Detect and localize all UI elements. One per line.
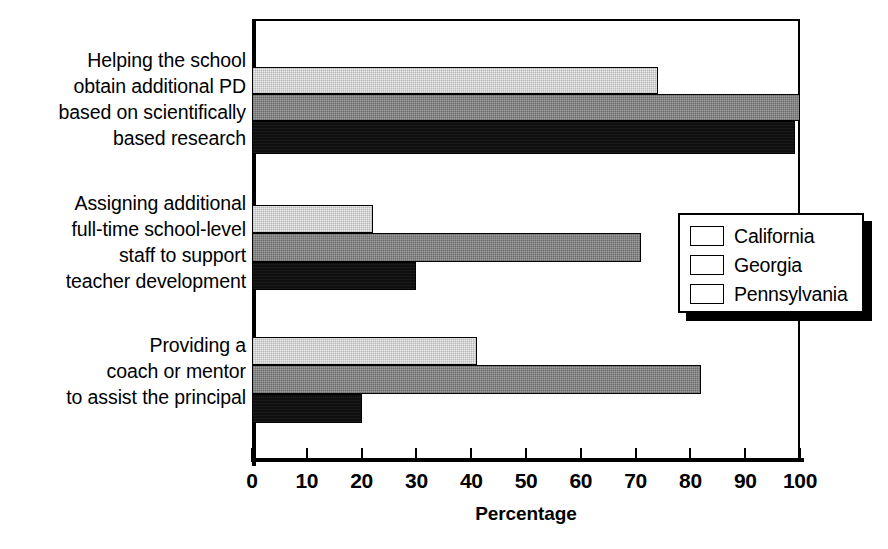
legend-item-pennsylvania: Pennsylvania [690,279,854,308]
legend: California Georgia Pennsylvania [678,213,864,313]
x-tick-label: 0 [246,468,257,494]
legend-item-california: California [690,221,854,250]
x-tick-label: 20 [350,468,373,494]
bar-chart: Helping the school obtain additional PD … [0,0,888,549]
x-tick-label: 10 [296,468,319,494]
legend-item-georgia: Georgia [690,250,854,279]
category-label-1: Helping the school obtain additional PD … [0,47,246,151]
legend-label-california: California [734,226,814,246]
x-tick [361,448,363,462]
legend-label-georgia: Georgia [734,255,802,275]
legend-label-pennsylvania: Pennsylvania [734,284,848,304]
x-tick-label: 40 [460,468,483,494]
x-tick [415,448,417,462]
category-label-3: Providing a coach or mentor to assist th… [0,332,246,410]
x-axis-title: Percentage [252,503,800,525]
x-axis-tick-labels: 0102030405060708090100 [252,468,800,494]
legend-swatch-pennsylvania [690,284,724,304]
x-tick [689,448,691,462]
x-tick [251,448,253,462]
x-tick-label: 90 [734,468,757,494]
x-tick [744,448,746,462]
x-tick-label: 70 [624,468,647,494]
x-tick-label: 30 [405,468,428,494]
x-tick-label: 50 [515,468,538,494]
legend-swatch-georgia [690,255,724,275]
category-labels: Helping the school obtain additional PD … [0,0,246,455]
x-tick-label: 60 [570,468,593,494]
category-label-2: Assigning additional full-time school-le… [0,190,246,294]
x-tick [580,448,582,462]
x-tick [799,448,801,462]
x-tick [635,448,637,462]
x-tick-label: 100 [783,468,817,494]
x-tick [525,448,527,462]
legend-swatch-california [690,226,724,246]
x-tick-label: 80 [679,468,702,494]
x-tick [306,448,308,462]
x-tick [470,448,472,462]
